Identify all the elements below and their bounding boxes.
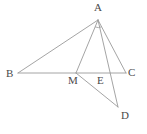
vertex-label-b: B: [6, 68, 13, 79]
vertex-label-e: E: [97, 75, 104, 86]
vertex-label-a: A: [94, 2, 102, 13]
vertex-label-d: D: [121, 110, 129, 121]
segment-ab: [18, 20, 98, 73]
angle-arc-at-a: [95, 27, 102, 28]
segment-ad: [98, 20, 118, 107]
geometry-figure: A B M E C D: [0, 0, 147, 134]
vertex-label-m: M: [68, 75, 78, 86]
angle-marker-group: [95, 27, 102, 28]
segment-am: [76, 20, 98, 73]
segment-group: [18, 20, 126, 107]
segment-ac: [98, 20, 126, 73]
vertex-label-c: C: [128, 67, 135, 78]
